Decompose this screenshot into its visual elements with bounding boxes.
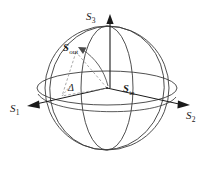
s2-axis-label: S2 <box>186 110 195 121</box>
s3-axis-arrowhead <box>106 14 113 24</box>
s1-axis-label-base: S <box>10 102 16 114</box>
lower-tilt-arc <box>38 94 176 112</box>
s2-axis-label-subscript: 2 <box>192 115 196 124</box>
s-out-label-subscript: out <box>69 48 78 56</box>
s1-axis-label-subscript: 1 <box>16 108 20 117</box>
s-out-vector-label: Sout <box>63 43 78 54</box>
s-in-label-base: S <box>123 83 129 94</box>
s-in-label-subscript: in <box>129 89 134 97</box>
rotation-arc <box>83 50 108 86</box>
s3-axis-label-subscript: 3 <box>92 16 96 25</box>
origin-point-marker <box>106 87 108 89</box>
s3-axis-label-base: S <box>86 10 92 22</box>
delta-angle-label: Δ <box>68 83 74 93</box>
s2-axis-arrowhead <box>177 101 190 109</box>
poincare-sphere-figure: S3 S1 S2 Sout Sin Δ <box>0 0 204 170</box>
s-in-vector-label: Sin <box>123 84 134 95</box>
s1-axis-arrowhead <box>27 101 40 109</box>
s3-axis-label: S3 <box>86 11 95 22</box>
s2-axis-label-base: S <box>186 109 192 121</box>
poincare-sphere-graphic <box>0 0 204 170</box>
s1-axis-label: S1 <box>10 103 19 114</box>
s-out-label-base: S <box>63 42 69 53</box>
